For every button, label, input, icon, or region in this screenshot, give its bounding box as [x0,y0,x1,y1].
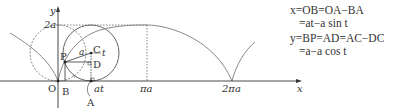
equation-x-line2: =at−a sin t [290,17,384,30]
x-axis-label: x [297,83,303,94]
origin-label: O [48,83,56,94]
x-tick-2pi-a: 2πa [221,83,241,94]
label-angle-t: t [102,48,106,58]
x-tick-pi-a: πa [139,83,153,94]
label-radius-a: a [79,47,84,57]
label-B: B [62,86,69,97]
label-D: D [93,59,101,70]
equations-block: x=OB=OA−BA =at−a sin t y=BP=AD=AC−DC =a−… [290,4,384,58]
cycloid-curve [10,25,255,81]
label-P: P [60,51,67,62]
equation-y-line1: y=BP=AD=AC−DC [290,32,384,45]
label-arc-at: at [94,83,105,94]
arc-pointer [87,82,90,96]
y-tick-2a: 2a [43,19,56,30]
point-A [90,80,93,83]
label-A: A [86,97,95,108]
label-C: C [93,44,101,55]
equation-y-line2: =a−a cos t [290,45,384,58]
point-C [90,52,93,55]
y-axis-label: y [49,5,56,16]
point-O [57,80,60,83]
y-axis-arrow-icon [56,6,60,12]
right-angle-mark-D [88,62,91,65]
equation-x-line1: x=OB=OA−BA [290,4,384,17]
